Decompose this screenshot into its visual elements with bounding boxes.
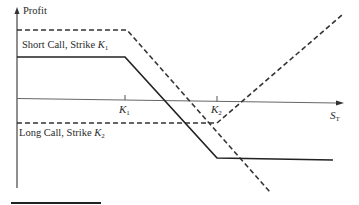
long-call-line (17, 15, 342, 123)
k2-tick-label: K2 (211, 104, 222, 117)
footnote-rule (11, 202, 101, 204)
long-call-label-sub: 2 (101, 132, 105, 140)
chart-canvas (0, 0, 359, 205)
k1-tick-label: K1 (119, 104, 130, 117)
bull-spread-line (17, 57, 333, 160)
short-call-label-k: K (98, 39, 105, 50)
long-call-label: Long Call, Strike K2 (19, 128, 105, 140)
short-call-label-sub: 1 (105, 44, 109, 52)
x-axis-label-sub: T (336, 115, 340, 123)
k1-sub: 1 (126, 109, 130, 117)
payoff-chart: Profit Short Call, Strike K1 Long Call, … (0, 0, 359, 205)
x-axis-arrow-icon (336, 101, 344, 106)
x-axis (17, 99, 337, 104)
k2-sub: 2 (218, 109, 222, 117)
short-call-label-text: Short Call, Strike (22, 39, 98, 50)
x-axis-label: ST (330, 110, 340, 123)
y-axis-label: Profit (23, 6, 47, 17)
short-call-label: Short Call, Strike K1 (22, 40, 108, 52)
y-axis-arrow-icon (15, 7, 20, 14)
long-call-label-text: Long Call, Strike (19, 127, 94, 138)
